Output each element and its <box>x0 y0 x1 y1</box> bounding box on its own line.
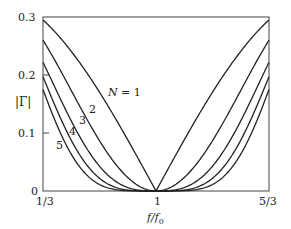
y-tick-label-0.1: 0.1 <box>18 128 36 139</box>
series-label-n1-rest: = 1 <box>118 86 141 99</box>
curve-n5 <box>43 90 269 192</box>
curve-n3 <box>43 62 269 191</box>
curve-n1 <box>43 20 269 191</box>
y-axis-label: |Γ| <box>15 96 31 108</box>
plot-frame <box>43 17 269 191</box>
x-tick-label-1: 1 <box>154 196 161 207</box>
x-axis-label: f/f0 <box>147 212 164 226</box>
series-label-n3: 3 <box>79 115 86 126</box>
curves <box>43 20 269 191</box>
x-axis-label-subscript: 0 <box>159 217 164 226</box>
reflection-coefficient-chart: 0.3 0.2 0.1 0 |Γ| 1/3 1 5/3 f/f0 N = 1 2… <box>0 0 291 229</box>
x-tick-label-1/3: 1/3 <box>36 196 54 207</box>
series-label-n1: N = 1 <box>108 87 141 98</box>
series-label-n4: 4 <box>69 126 76 137</box>
series-label-n5: 5 <box>56 140 63 151</box>
y-tick-label-0.3: 0.3 <box>18 12 36 23</box>
curve-n4 <box>43 77 269 191</box>
x-tick-label-5/3: 5/3 <box>259 196 277 207</box>
y-tick-label-0.2: 0.2 <box>18 70 36 81</box>
x-axis-label-main: f/f <box>147 211 159 224</box>
series-label-n2: 2 <box>89 104 96 115</box>
curve-n2 <box>43 40 269 191</box>
